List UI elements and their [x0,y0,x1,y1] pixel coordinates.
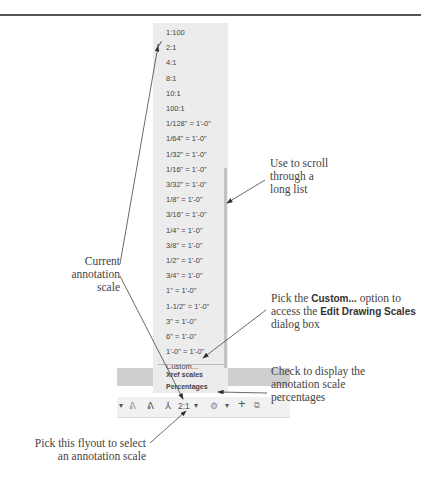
callout-arrows [0,0,445,484]
